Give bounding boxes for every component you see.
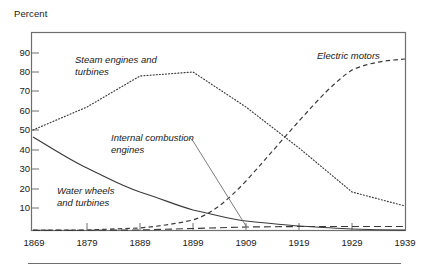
chart-figure: Percent 90 80 70 60 50 40 30 20 10 1869 … [0,0,429,271]
y-tick-marks [32,53,40,208]
series-line-steam-engines [33,72,405,206]
plot-canvas [0,0,429,271]
series-line-water-wheels [33,137,405,230]
plot-frame [32,33,406,231]
annotation-leader-line-internal-combustion [190,138,246,226]
series-line-electric-motors [33,59,405,230]
